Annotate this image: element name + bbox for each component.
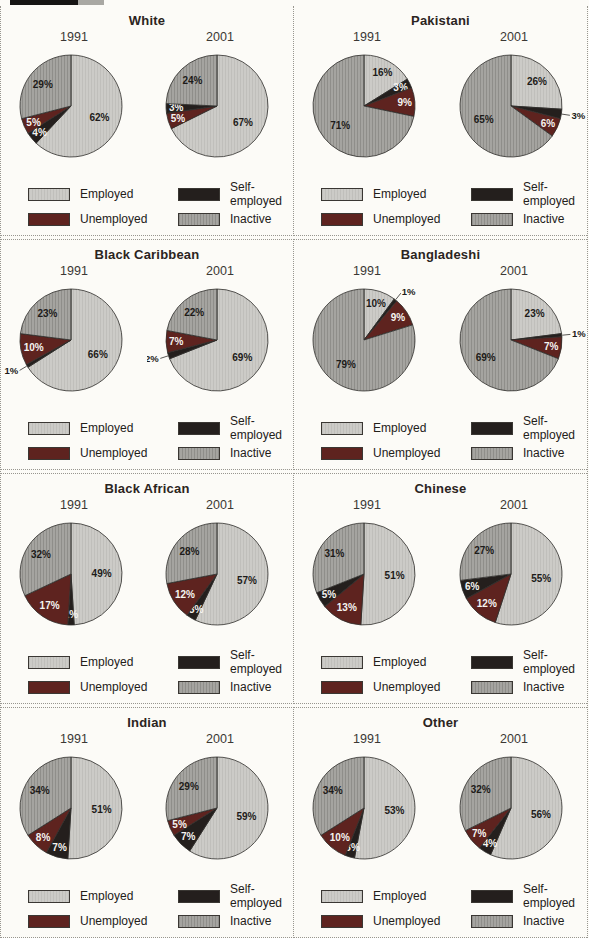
legend-swatch-unemployed xyxy=(28,447,70,460)
panel-title-indian: Indian xyxy=(1,712,293,730)
year-label-2001: 2001 xyxy=(441,732,587,746)
slice-label: 71% xyxy=(330,120,350,131)
legend-label-employed: Employed xyxy=(373,421,426,435)
legend-label-employed: Employed xyxy=(80,889,133,903)
slice-label: 1% xyxy=(402,286,416,297)
pie-chart-black-african-2001: 57%3%12%28% xyxy=(147,512,293,644)
legend-black-caribbean: EmployedSelf-employedUnemployedInactive xyxy=(1,414,293,460)
slice-label: 67% xyxy=(233,117,253,128)
slice-label: 51% xyxy=(92,804,112,815)
leader-line xyxy=(160,356,168,359)
pie-block-other-1991: 199153%3%10%34% xyxy=(294,732,440,878)
legend-label-inactive: Inactive xyxy=(230,446,271,460)
slice-label: 24% xyxy=(182,75,202,86)
legend-swatch-unemployed xyxy=(321,681,363,694)
slice-label: 8% xyxy=(36,832,51,843)
legend-indian: EmployedSelf-employedUnemployedInactive xyxy=(1,882,293,928)
slice-label: 12% xyxy=(477,598,497,609)
legend-label-inactive: Inactive xyxy=(230,914,271,928)
legend-swatch-inactive xyxy=(178,447,220,460)
legend-label-inactive: Inactive xyxy=(230,680,271,694)
pie-block-black-african-2001: 200157%3%12%28% xyxy=(147,498,293,644)
slice-label: 28% xyxy=(179,546,199,557)
legend-label-unemployed: Unemployed xyxy=(80,914,147,928)
slice-label: 7% xyxy=(52,842,67,853)
pie-chart-indian-2001: 59%7%5%29% xyxy=(147,746,293,878)
pie-chart-black-caribbean-1991: 66%1%10%23% xyxy=(1,278,147,410)
pie-block-bangladeshi-2001: 200123%1%7%69% xyxy=(441,264,587,410)
panel-pakistani: Pakistani199116%3%9%71%200126%3%6%65%Emp… xyxy=(294,6,587,236)
legend-swatch-inactive xyxy=(178,915,220,928)
slice-label: 49% xyxy=(92,568,112,579)
slice-label: 5% xyxy=(322,589,337,600)
pie-block-chinese-1991: 199151%13%5%31% xyxy=(294,498,440,644)
slice-label: 27% xyxy=(474,545,494,556)
legend-swatch-self_employed xyxy=(178,890,220,903)
slice-label: 55% xyxy=(531,573,551,584)
slice-label: 34% xyxy=(30,785,50,796)
pie-chart-indian-1991: 51%7%8%34% xyxy=(1,746,147,878)
legend-item-inactive: Inactive xyxy=(471,212,587,226)
page-header-bar-crop xyxy=(10,0,104,5)
legend-item-self_employed: Self-employed xyxy=(178,414,293,442)
legend-swatch-inactive xyxy=(178,213,220,226)
legend-item-inactive: Inactive xyxy=(471,446,587,460)
legend-swatch-self_employed xyxy=(178,422,220,435)
slice-label: 57% xyxy=(237,575,257,586)
pie-pair-other: 199153%3%10%34%200156%4%7%32% xyxy=(294,732,587,878)
legend-label-self_employed: Self-employed xyxy=(230,414,293,442)
legend-item-self_employed: Self-employed xyxy=(471,414,587,442)
legend-label-inactive: Inactive xyxy=(523,212,564,226)
slice-label: 65% xyxy=(474,114,494,125)
pie-chart-black-caribbean-2001: 69%2%7%22% xyxy=(147,278,293,410)
legend-white: EmployedSelf-employedUnemployedInactive xyxy=(1,180,293,226)
legend-other: EmployedSelf-employedUnemployedInactive xyxy=(294,882,587,928)
pie-chart-bangladeshi-2001: 23%1%7%69% xyxy=(441,278,587,410)
legend-label-employed: Employed xyxy=(80,655,133,669)
pie-chart-chinese-1991: 51%13%5%31% xyxy=(294,512,440,644)
legend-swatch-inactive xyxy=(178,681,220,694)
pie-block-black-caribbean-1991: 199166%1%10%23% xyxy=(1,264,147,410)
slice-label: 62% xyxy=(89,112,109,123)
panel-title-chinese: Chinese xyxy=(294,478,587,496)
legend-item-unemployed: Unemployed xyxy=(28,914,178,928)
slice-label: 1% xyxy=(5,365,19,376)
slice-label: 23% xyxy=(525,308,545,319)
slice-label: 6% xyxy=(541,118,556,129)
slice-label: 2% xyxy=(147,353,159,364)
panel-title-white: White xyxy=(1,10,293,28)
year-label-1991: 1991 xyxy=(1,732,147,746)
panel-indian: Indian199151%7%8%34%200159%7%5%29%Employ… xyxy=(1,707,294,938)
legend-swatch-employed xyxy=(321,656,363,669)
pie-pair-pakistani: 199116%3%9%71%200126%3%6%65% xyxy=(294,30,587,176)
legend-swatch-employed xyxy=(321,890,363,903)
leader-line xyxy=(396,293,401,299)
legend-label-self_employed: Self-employed xyxy=(523,882,587,910)
pie-chart-bangladeshi-1991: 10%1%9%79% xyxy=(294,278,440,410)
legend-swatch-employed xyxy=(321,422,363,435)
legend-item-employed: Employed xyxy=(28,414,178,442)
pie-block-pakistani-1991: 199116%3%9%71% xyxy=(294,30,440,176)
slice-label: 7% xyxy=(544,341,559,352)
legend-item-self_employed: Self-employed xyxy=(178,648,293,676)
slice-label: 69% xyxy=(232,352,252,363)
legend-item-inactive: Inactive xyxy=(178,680,293,694)
pie-pair-indian: 199151%7%8%34%200159%7%5%29% xyxy=(1,732,293,878)
year-label-2001: 2001 xyxy=(147,732,293,746)
legend-swatch-self_employed xyxy=(471,656,513,669)
slice-label: 79% xyxy=(336,359,356,370)
legend-swatch-employed xyxy=(28,422,70,435)
legend-item-self_employed: Self-employed xyxy=(178,180,293,208)
year-label-1991: 1991 xyxy=(1,498,147,512)
legend-label-self_employed: Self-employed xyxy=(523,180,587,208)
legend-label-unemployed: Unemployed xyxy=(80,212,147,226)
legend-item-self_employed: Self-employed xyxy=(471,180,587,208)
legend-swatch-self_employed xyxy=(471,188,513,201)
legend-item-inactive: Inactive xyxy=(178,212,293,226)
pie-block-indian-2001: 200159%7%5%29% xyxy=(147,732,293,878)
pie-pair-black-caribbean: 199166%1%10%23%200169%2%7%22% xyxy=(1,264,293,410)
legend-swatch-inactive xyxy=(471,447,513,460)
legend-item-employed: Employed xyxy=(321,648,471,676)
legend-pakistani: EmployedSelf-employedUnemployedInactive xyxy=(294,180,587,226)
slice-label: 7% xyxy=(472,828,487,839)
